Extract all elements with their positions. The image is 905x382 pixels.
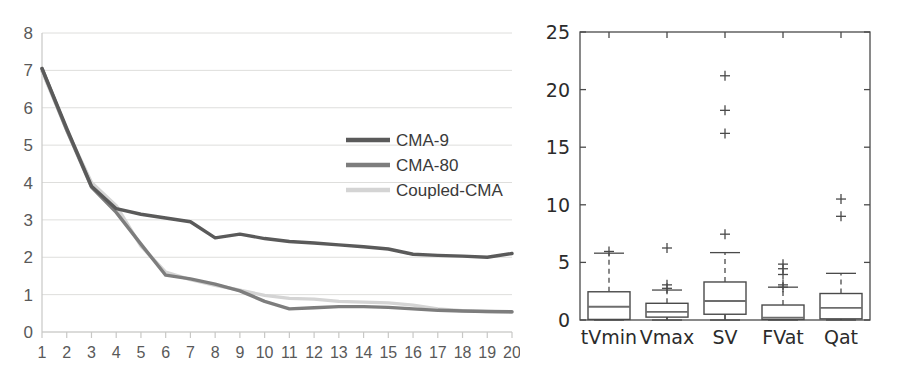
x-tick-label: 4 (112, 344, 121, 361)
y-tick-label: 2 (24, 248, 33, 267)
x-tick-label: 5 (136, 344, 145, 361)
x-tick-label: 10 (256, 344, 274, 361)
outlier-marker (836, 211, 846, 221)
x-category-label-fvat: FVat (762, 326, 804, 348)
x-tick-label: 3 (87, 344, 96, 361)
x-tick-label: 18 (454, 344, 472, 361)
boxplot-box-fvat (762, 259, 804, 320)
y-tick-label: 7 (24, 61, 33, 80)
y-tick-label: 5 (24, 136, 33, 155)
x-tick-label: 1 (38, 344, 47, 361)
boxplot-box-qat (820, 194, 862, 320)
x-tick-label: 6 (161, 344, 170, 361)
y-tick-label: 5 (558, 251, 570, 273)
x-tick-label: 9 (235, 344, 244, 361)
x-tick-label: 14 (355, 344, 373, 361)
outlier-marker (720, 128, 730, 138)
outlier-marker (604, 246, 614, 256)
x-tick-label: 8 (211, 344, 220, 361)
feature-boxplot-panel: 0510152025tVminVmaxSVFVatQat (520, 0, 905, 382)
outlier-marker (778, 280, 788, 290)
boxplot-box-sv (704, 71, 746, 320)
y-tick-label: 20 (546, 79, 570, 101)
y-tick-label: 0 (24, 323, 33, 342)
box-iqr (646, 303, 688, 317)
y-tick-label: 8 (24, 24, 33, 43)
x-category-label-tvmin: tVmin (581, 326, 637, 348)
legend-label-cma-9: CMA-9 (396, 131, 449, 150)
x-category-label-vmax: Vmax (640, 326, 694, 348)
box-iqr (820, 294, 862, 319)
x-tick-label: 19 (478, 344, 496, 361)
y-tick-label: 3 (24, 211, 33, 230)
y-tick-label: 4 (24, 174, 33, 193)
outlier-marker (720, 229, 730, 239)
boxplot-box-tvmin (588, 246, 630, 320)
y-tick-label: 1 (24, 286, 33, 305)
outlier-marker (778, 259, 788, 269)
x-tick-label: 15 (379, 344, 397, 361)
legend-label-coupled-cma: Coupled-CMA (396, 181, 503, 200)
outlier-marker (720, 71, 730, 81)
x-category-label-sv: SV (712, 326, 737, 348)
x-tick-label: 7 (186, 344, 195, 361)
outlier-marker (662, 243, 672, 253)
y-tick-label: 0 (558, 309, 570, 331)
x-category-label-qat: Qat (824, 326, 858, 348)
x-tick-label: 16 (404, 344, 422, 361)
y-tick-label: 15 (546, 136, 570, 158)
outlier-marker (720, 105, 730, 115)
x-tick-label: 13 (330, 344, 348, 361)
boxplot-svg: 0510152025tVminVmaxSVFVatQat (520, 0, 905, 382)
y-tick-label: 10 (546, 194, 570, 216)
x-tick-label: 20 (503, 344, 520, 361)
figure-root: 0123456781234567891011121314151617181920… (0, 0, 905, 382)
x-tick-label: 17 (429, 344, 447, 361)
boxplot-box-vmax (646, 243, 688, 320)
x-tick-label: 11 (281, 344, 298, 361)
x-tick-label: 2 (62, 344, 71, 361)
convergence-line-chart-panel: 0123456781234567891011121314151617181920… (0, 0, 520, 382)
y-tick-label: 25 (546, 21, 570, 43)
x-tick-label: 12 (305, 344, 323, 361)
box-iqr (588, 292, 630, 320)
outlier-marker (836, 194, 846, 204)
legend-label-cma-80: CMA-80 (396, 156, 458, 175)
box-iqr (704, 282, 746, 314)
y-tick-label: 6 (24, 99, 33, 118)
line-chart-svg: 0123456781234567891011121314151617181920… (0, 0, 520, 382)
